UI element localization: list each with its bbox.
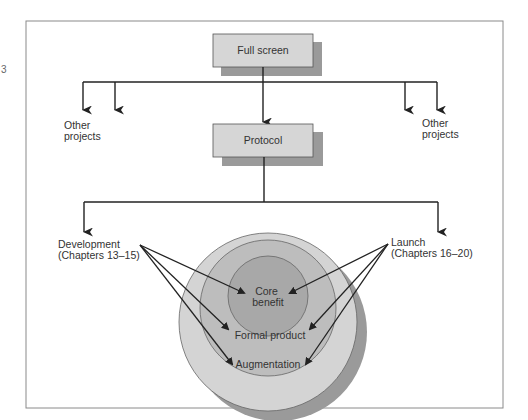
full-screen-box: Full screen <box>213 34 322 76</box>
augmentation-label: Augmentation <box>236 358 301 370</box>
formal-product-label: Formal product <box>235 329 306 341</box>
core-benefit-label: Core benefit <box>252 285 284 308</box>
protocol-label: Protocol <box>244 134 283 146</box>
protocol-box: Protocol <box>213 124 323 166</box>
full-screen-label: Full screen <box>237 44 289 56</box>
product-strategy-diagram: 3 Full screen Other projects Other proje… <box>0 0 528 420</box>
page-marker: 3 <box>1 64 7 75</box>
